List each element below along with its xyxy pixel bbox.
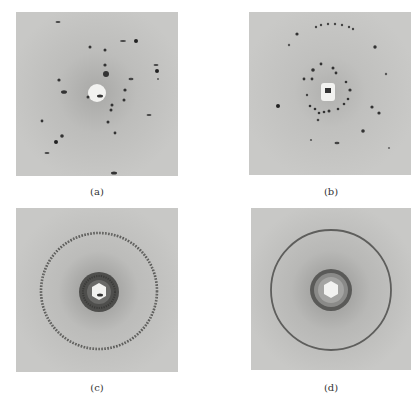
beam-stop-icon bbox=[88, 84, 106, 102]
diffraction-panel-a bbox=[16, 12, 178, 176]
laue-spots-pattern bbox=[16, 12, 178, 176]
diffraction-panel-d bbox=[251, 208, 411, 370]
panel-label-d: (d) bbox=[311, 382, 351, 393]
panel-label-a: (a) bbox=[77, 186, 117, 197]
panel-label-c: (c) bbox=[77, 382, 117, 393]
diffraction-panel-c bbox=[16, 208, 178, 372]
continuous-ring-pattern bbox=[251, 208, 411, 370]
diffraction-panel-b bbox=[249, 12, 411, 175]
spotty-debye-ring-pattern bbox=[16, 208, 178, 372]
page-header bbox=[0, 0, 418, 6]
spotty-ring-pattern bbox=[249, 12, 411, 175]
panel-label-b: (b) bbox=[311, 186, 351, 197]
